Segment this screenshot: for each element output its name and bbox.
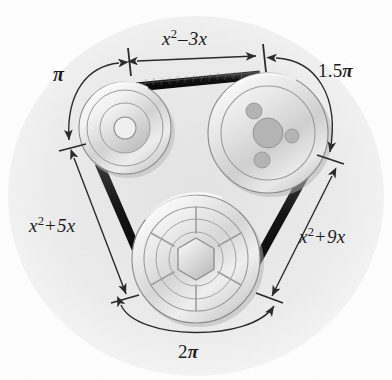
- bolt-hole: [246, 103, 262, 119]
- bolt-hole: [254, 152, 270, 168]
- label-top-operator: –: [177, 28, 189, 49]
- label-right-operator: +: [314, 226, 327, 247]
- diagram-canvas: [0, 0, 392, 380]
- label-left-operator: +: [44, 215, 57, 236]
- label-top-straight: x2–3x: [162, 28, 207, 50]
- label-right-straight: x2+9x: [299, 226, 345, 248]
- label-upper-left-arc: π: [53, 63, 64, 86]
- label-upper-right-coefficient: 1.5: [318, 60, 342, 81]
- label-right-term: 9x: [327, 226, 345, 247]
- label-left-base: x: [29, 215, 38, 236]
- pulley-diagram-figure: x2–3x π 1.5π x2+5x x2+9x 2π: [0, 0, 392, 380]
- label-upper-left-symbol: π: [53, 63, 64, 85]
- label-bottom-symbol: π: [188, 341, 199, 362]
- label-upper-right-arc: 1.5π: [318, 60, 353, 82]
- label-left-straight: x2+5x: [29, 215, 75, 237]
- label-bottom-arc: 2π: [178, 341, 198, 363]
- bolt-hole: [285, 129, 299, 143]
- label-top-term: 3x: [189, 28, 207, 49]
- label-left-term: 5x: [57, 215, 75, 236]
- hub-center-hole: [253, 118, 283, 148]
- label-right-base: x: [299, 226, 308, 247]
- label-bottom-coefficient: 2: [178, 341, 188, 362]
- label-top-base: x: [162, 28, 171, 49]
- label-upper-right-symbol: π: [342, 60, 353, 81]
